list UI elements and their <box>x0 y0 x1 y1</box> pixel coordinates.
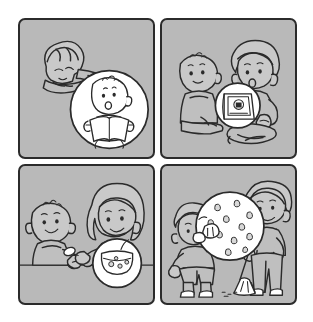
illustration-sheet <box>0 0 313 322</box>
picture-book-object <box>223 94 255 119</box>
panel-3-artwork <box>20 166 153 303</box>
comic-panel-1[interactable] <box>18 18 155 159</box>
panel-grid <box>18 18 297 305</box>
panel-4-artwork <box>162 166 295 303</box>
comic-panel-2[interactable] <box>160 18 297 159</box>
panel-1-artwork <box>20 20 153 157</box>
comic-panel-4[interactable] <box>160 164 297 305</box>
comic-panel-3[interactable] <box>18 164 155 305</box>
baby-at-table-figure <box>26 200 81 268</box>
baby-sitting-figure <box>180 53 223 134</box>
panel-2-artwork <box>162 20 295 157</box>
